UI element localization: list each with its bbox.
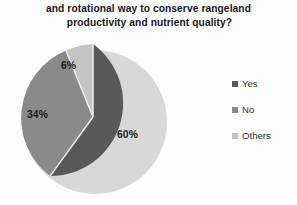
chart-title: and rotational way to conserve rangeland… <box>0 2 297 30</box>
legend-label-others: Others <box>242 130 271 141</box>
legend-swatch-yes <box>232 81 238 87</box>
legend-swatch-no <box>232 107 238 113</box>
legend-swatch-others <box>232 133 238 139</box>
legend-item-no[interactable]: No <box>232 104 297 130</box>
chart-legend: Yes No Others <box>232 78 297 156</box>
legend-item-others[interactable]: Others <box>232 130 297 156</box>
chart-title-line-2: productivity and nutrient quality? <box>0 16 297 30</box>
chart-title-line-1: and rotational way to conserve rangeland <box>0 2 297 16</box>
chart-figure: and rotational way to conserve rangeland… <box>0 0 297 205</box>
pie-chart-plot-area: 60% 34% 6% <box>0 38 200 205</box>
legend-item-yes[interactable]: Yes <box>232 78 297 104</box>
pie-label-yes: 60% <box>117 129 138 140</box>
legend-label-no: No <box>242 104 254 115</box>
pie-label-others: 6% <box>61 60 76 71</box>
pie-label-no: 34% <box>27 109 48 120</box>
legend-label-yes: Yes <box>242 78 258 89</box>
